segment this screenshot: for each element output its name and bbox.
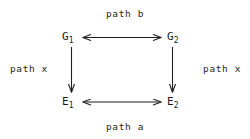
node-e1-base: E (62, 95, 69, 108)
node-e2-base: E (167, 95, 174, 108)
commutative-diagram: path b path x path a path x G1 G2 E1 E2 (0, 0, 250, 139)
node-g2-base: G (167, 30, 174, 43)
node-g1-base: G (62, 30, 69, 43)
node-e2: E2 (167, 96, 178, 110)
node-g2: G2 (167, 31, 178, 45)
arrow-layer (0, 0, 250, 139)
node-g2-subscript: 2 (174, 36, 179, 45)
node-e1-subscript: 1 (69, 101, 74, 110)
node-e1: E1 (62, 96, 73, 110)
node-g1-subscript: 1 (69, 36, 74, 45)
node-e2-subscript: 2 (174, 101, 179, 110)
node-g1: G1 (62, 31, 73, 45)
